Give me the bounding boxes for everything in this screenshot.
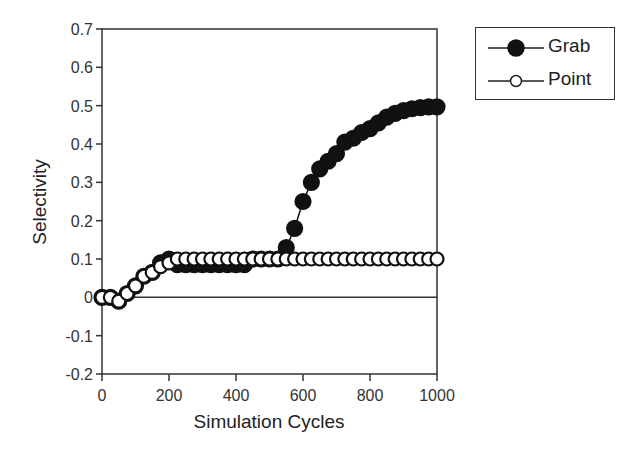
- y-tick-label: -0.1: [65, 328, 93, 345]
- legend-label-point: Point: [548, 68, 591, 90]
- x-tick-label: 800: [357, 387, 384, 404]
- y-tick-label: -0.2: [65, 366, 93, 383]
- grab-data-point: [430, 99, 445, 114]
- filled-circle-marker-icon: [488, 37, 544, 59]
- x-tick-label: 200: [156, 387, 183, 404]
- x-tick-label: 400: [223, 387, 250, 404]
- x-tick-label: 0: [98, 387, 107, 404]
- grab-data-point: [296, 194, 311, 209]
- series-point: [96, 253, 444, 308]
- y-tick-label: 0.7: [71, 21, 93, 38]
- x-tick-label: 1000: [419, 387, 455, 404]
- legend-item-grab: Grab: [476, 32, 614, 62]
- open-circle-marker-icon: [488, 70, 544, 92]
- x-tick-label: 600: [290, 387, 317, 404]
- axes: 0.70.60.50.40.30.20.10-0.1-0.20200400600…: [65, 21, 454, 404]
- x-axis-label: Simulation Cycles: [194, 411, 345, 432]
- grab-data-point: [304, 175, 319, 190]
- y-tick-label: 0.6: [71, 59, 93, 76]
- y-tick-label: 0: [84, 289, 93, 306]
- grab-data-point: [287, 221, 302, 236]
- y-tick-label: 0.3: [71, 174, 93, 191]
- legend: Grab Point: [475, 27, 615, 100]
- legend-item-point: Point: [476, 65, 614, 95]
- y-tick-label: 0.5: [71, 98, 93, 115]
- plot-frame: [102, 29, 437, 374]
- point-data-point: [431, 253, 444, 266]
- y-axis-label: Selectivity: [29, 159, 50, 245]
- y-tick-label: 0.1: [71, 251, 93, 268]
- y-tick-label: 0.2: [71, 213, 93, 230]
- legend-label-grab: Grab: [548, 35, 590, 57]
- y-tick-label: 0.4: [71, 136, 93, 153]
